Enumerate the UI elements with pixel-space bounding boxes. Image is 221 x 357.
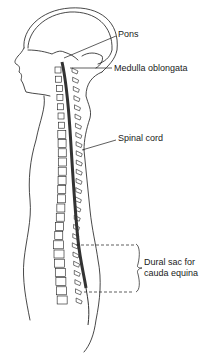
spinous-process (73, 77, 79, 83)
spinous-process (75, 114, 81, 120)
spinous-process (76, 160, 82, 166)
spinous-process (74, 270, 80, 276)
vertebra (56, 85, 62, 91)
spinous-process (73, 86, 79, 92)
spinous-process (76, 178, 82, 184)
vertebra (57, 296, 67, 304)
skull-inner (28, 12, 112, 64)
spinous-process (75, 197, 81, 203)
spinous-process (75, 280, 81, 286)
vertebra (58, 149, 66, 157)
dural-sac-brace (136, 244, 142, 292)
neck-back (84, 72, 102, 150)
label-pons: Pons (118, 29, 139, 39)
spinous-process (76, 169, 82, 175)
vertebra (58, 140, 66, 148)
vertebra (56, 76, 62, 82)
vertebra (55, 67, 61, 73)
vertebra (58, 167, 66, 175)
vertebra (58, 113, 64, 119)
pons-leader (64, 36, 116, 58)
vertebra (58, 104, 64, 110)
label-spinal-cord: Spinal cord (118, 133, 163, 143)
vertebra (56, 222, 64, 230)
brain-base (28, 50, 103, 68)
vertebra (58, 122, 64, 128)
label-medulla-oblongata: Medulla oblongata (114, 63, 188, 73)
spinous-process (76, 188, 82, 194)
spinous-process (73, 252, 79, 258)
face-profile (15, 48, 50, 96)
spinous-process (74, 261, 80, 267)
vertebra (57, 95, 63, 101)
vertebra (54, 250, 64, 258)
label-dural-sac-line1: Dural sac for (144, 257, 195, 267)
vertebra (53, 241, 63, 249)
spinous-process (76, 298, 82, 304)
body-back (84, 150, 100, 352)
spinous-process (76, 132, 82, 138)
vertebra (57, 204, 65, 212)
spinous-process (75, 123, 81, 129)
vertebra (56, 278, 66, 286)
spinous-process (76, 289, 82, 295)
skull-outline (24, 8, 117, 72)
spinous-process (72, 68, 78, 74)
vertebra (58, 176, 66, 184)
spine-anatomy-diagram (0, 0, 221, 357)
vertebra (55, 268, 65, 276)
spinous-process (74, 96, 80, 102)
vertebra (55, 259, 65, 267)
vertebra (57, 195, 65, 203)
vertebra (58, 186, 66, 194)
vertebra (55, 232, 63, 240)
spinal-cord-leader (82, 140, 116, 150)
vertebra (56, 213, 64, 221)
spinous-process (76, 151, 82, 157)
vertebra (58, 130, 66, 138)
label-dural-sac-line2: cauda equina (144, 268, 198, 278)
vertebra (57, 287, 67, 295)
cauda-equina (86, 288, 89, 325)
body-front (23, 96, 44, 320)
spinous-process (76, 142, 82, 148)
spinous-process (75, 105, 81, 111)
vertebra (58, 158, 66, 166)
